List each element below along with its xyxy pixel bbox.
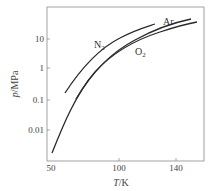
x-axis-title: T/K	[113, 177, 129, 188]
x-axis: 50 100 140	[47, 158, 184, 173]
label-n2: N2	[94, 39, 105, 52]
label-ar: Ar	[163, 16, 174, 27]
y-tick-1: 1	[40, 63, 45, 73]
label-o2: O2	[135, 46, 146, 59]
x-tick-140: 140	[169, 163, 183, 173]
y-tick-0.01: 0.01	[28, 125, 44, 135]
curve-o2	[52, 22, 197, 153]
x-tick-100: 100	[112, 163, 126, 173]
y-axis-title: p/MPa	[9, 70, 20, 98]
y-tick-0.1: 0.1	[33, 95, 44, 105]
vapor-pressure-chart: 10 1 0.1 0.01 50 100 140 T/K p/MPa N2 Ar…	[0, 0, 209, 191]
y-tick-10: 10	[35, 34, 45, 44]
x-tick-50: 50	[47, 163, 57, 173]
